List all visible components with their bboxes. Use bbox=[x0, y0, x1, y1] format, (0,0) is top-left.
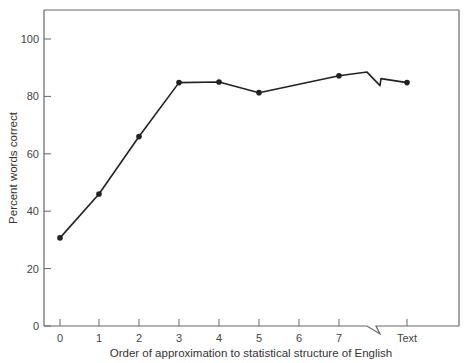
x-tick-label: 5 bbox=[256, 332, 262, 344]
y-axis-ticks: 020406080100 bbox=[21, 33, 51, 332]
data-point bbox=[404, 80, 410, 86]
data-point bbox=[216, 79, 222, 85]
x-tick-label: 2 bbox=[136, 332, 142, 344]
x-tick-label: 0 bbox=[57, 332, 63, 344]
y-tick-label: 0 bbox=[33, 320, 39, 332]
plot-frame bbox=[44, 10, 459, 334]
y-axis-title: Percent words correct bbox=[7, 111, 19, 224]
data-point bbox=[136, 134, 142, 140]
data-line bbox=[60, 72, 407, 238]
y-tick-label: 40 bbox=[27, 205, 39, 217]
y-tick-label: 20 bbox=[27, 263, 39, 275]
x-axis-ticks: 01234567Text bbox=[57, 319, 417, 344]
line-chart: 020406080100 01234567Text Order of appro… bbox=[0, 0, 464, 363]
data-point bbox=[96, 191, 102, 197]
data-point bbox=[176, 80, 182, 86]
x-tick-label: 3 bbox=[176, 332, 182, 344]
data-point bbox=[57, 235, 63, 241]
x-tick-label: 7 bbox=[336, 332, 342, 344]
y-tick-label: 100 bbox=[21, 33, 39, 45]
y-tick-label: 60 bbox=[27, 148, 39, 160]
x-tick-label: Text bbox=[397, 332, 417, 344]
x-tick-label: 4 bbox=[216, 332, 222, 344]
x-tick-label: 6 bbox=[296, 332, 302, 344]
x-axis-title: Order of approximation to statistical st… bbox=[110, 347, 393, 359]
data-points bbox=[57, 73, 410, 241]
y-tick-label: 80 bbox=[27, 90, 39, 102]
x-tick-label: 1 bbox=[96, 332, 102, 344]
data-point bbox=[336, 73, 342, 79]
data-point bbox=[256, 90, 262, 96]
